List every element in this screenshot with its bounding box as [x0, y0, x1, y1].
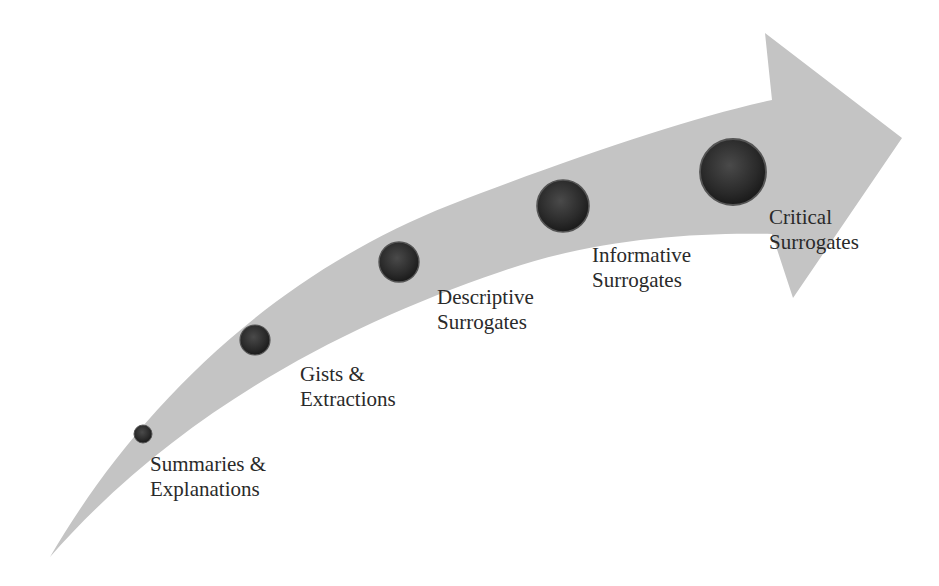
stage-label-gists: Gists & Extractions [300, 362, 396, 412]
stage-label-line2: Surrogates [592, 268, 691, 293]
stage-label-summaries: Summaries & Explanations [150, 452, 266, 502]
stage-label-critical: Critical Surrogates [769, 205, 859, 255]
stage-dot-1 [134, 425, 152, 443]
stage-label-line1: Informative [592, 243, 691, 268]
stage-label-informative: Informative Surrogates [592, 243, 691, 293]
stage-label-line1: Descriptive [437, 285, 534, 310]
stage-label-line2: Surrogates [769, 230, 859, 255]
stage-label-line2: Explanations [150, 477, 266, 502]
stage-label-descriptive: Descriptive Surrogates [437, 285, 534, 335]
stage-dot-2 [240, 325, 270, 355]
stage-label-line1: Critical [769, 205, 859, 230]
stage-label-line1: Gists & [300, 362, 396, 387]
stage-label-line2: Surrogates [437, 310, 534, 335]
stage-dot-5 [700, 139, 766, 205]
stage-dot-3 [379, 242, 419, 282]
stage-dot-4 [537, 180, 589, 232]
stage-label-line2: Extractions [300, 387, 396, 412]
stage-label-line1: Summaries & [150, 452, 266, 477]
progression-diagram: Summaries & Explanations Gists & Extract… [0, 0, 939, 586]
